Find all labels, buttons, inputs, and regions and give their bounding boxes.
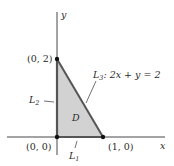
- l1-label: L1: [68, 150, 79, 163]
- l2-label: L2: [28, 94, 39, 107]
- l3-leader: [86, 81, 96, 103]
- y-axis-label: y: [60, 9, 67, 20]
- point-0-2-label: (0, 2): [27, 53, 53, 64]
- point-0-0-label: (0, 0): [26, 141, 52, 152]
- region-d-label: D: [71, 112, 80, 123]
- l2-leader: [44, 101, 54, 102]
- point-1-0-dot: [101, 135, 105, 139]
- point-0-0-dot: [55, 135, 59, 139]
- l3-label: L3: 2x + y = 2: [92, 69, 161, 82]
- x-axis-label: x: [160, 140, 166, 151]
- l1-leader: [75, 141, 77, 148]
- point-0-2-dot: [55, 57, 59, 61]
- region-diagram: y x (0, 2) (0, 0) (1, 0) D L1 L2 L3: 2x …: [0, 0, 174, 166]
- point-1-0-label: (1, 0): [108, 141, 134, 152]
